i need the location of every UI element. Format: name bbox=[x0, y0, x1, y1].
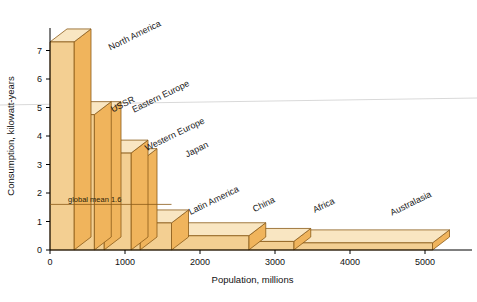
y-axis-tick-label: 4 bbox=[37, 131, 42, 141]
x-axis-tick-label: 2000 bbox=[190, 257, 210, 267]
x-axis-tick-label: 4000 bbox=[340, 257, 360, 267]
global-mean-label: global mean 1.6 bbox=[68, 195, 121, 204]
y-axis-tick-label: 6 bbox=[37, 74, 42, 84]
bar-side-face bbox=[131, 140, 148, 250]
y-axis-tick-label: 7 bbox=[37, 46, 42, 56]
x-axis-tick-label: 1000 bbox=[115, 257, 135, 267]
chart-canvas: 01000200030004000500001234567 North Amer… bbox=[0, 0, 477, 302]
bar-side-face bbox=[74, 29, 91, 250]
x-axis-tick-label: 3000 bbox=[265, 257, 285, 267]
y-axis-tick-label: 3 bbox=[37, 160, 42, 170]
bar-3d bbox=[50, 29, 91, 250]
bar-3d bbox=[294, 230, 450, 250]
y-axis-tick-label: 5 bbox=[37, 103, 42, 113]
x-axis-tick-label: 5000 bbox=[415, 257, 435, 267]
bar-top-face bbox=[294, 230, 450, 243]
y-axis-tick-label: 2 bbox=[37, 188, 42, 198]
bar-side-face bbox=[94, 102, 111, 250]
y-axis-title: Consumption, kilowatt-years bbox=[5, 76, 16, 196]
x-axis-tick-label: 0 bbox=[47, 257, 52, 267]
bar-front-face bbox=[50, 42, 74, 250]
bar-chart-svg: 01000200030004000500001234567 North Amer… bbox=[0, 0, 477, 302]
y-axis-tick-label: 0 bbox=[37, 245, 42, 255]
chart-figure: 01000200030004000500001234567 North Amer… bbox=[0, 0, 477, 302]
bar-front-face bbox=[294, 243, 433, 250]
x-axis-title: Population, millions bbox=[212, 274, 294, 285]
y-axis-tick-label: 1 bbox=[37, 217, 42, 227]
